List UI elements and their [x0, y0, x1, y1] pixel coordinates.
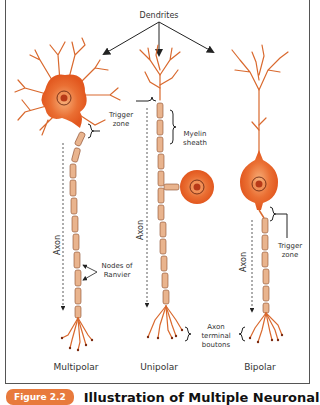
figure-caption: Figure 2.2 Illustration of Multiple Neur… [6, 390, 320, 404]
unipolar-label: Unipolar [140, 362, 178, 372]
nodes-of-ranvier-label-b: Ranvier [104, 271, 131, 279]
trigger-zone-label-2a: Trigger [277, 242, 302, 250]
multipolar-label: Multipolar [54, 362, 99, 372]
bipolar-neuron: Axon Trigger zone Bipolar [232, 45, 302, 372]
unipolar-neuron: Axon Myelin sheath Axon terminal boutons… [136, 45, 245, 372]
trigger-zone-label-1a: Trigger [108, 111, 133, 119]
bipolar-label: Bipolar [244, 362, 276, 372]
multipolar-axon-label: Axon [53, 235, 62, 255]
bipolar-axon-label: Axon [239, 252, 248, 272]
unipolar-axon-label: Axon [136, 220, 145, 240]
dendrite-pointer-arrows [104, 22, 213, 55]
figure-number-badge: Figure 2.2 [6, 389, 74, 405]
multipolar-neuron: Axon Trigger zone Nodes of Ranvier Multi… [15, 38, 133, 372]
myelin-sheath-label-a: Myelin [184, 130, 207, 138]
caption-text: Illustration of Multiple Neuronal [84, 390, 320, 405]
dendrites-label: Dendrites [140, 11, 179, 20]
trigger-zone-label-2b: zone [282, 251, 299, 259]
axon-terminal-label-c: boutons [202, 341, 231, 349]
axon-terminal-label-b: terminal [201, 332, 230, 340]
trigger-zone-label-1b: zone [113, 120, 130, 128]
axon-terminal-label-a: Axon [207, 323, 224, 331]
myelin-sheath-label-b: sheath [183, 139, 207, 147]
nodes-of-ranvier-label-a: Nodes of [102, 262, 133, 270]
